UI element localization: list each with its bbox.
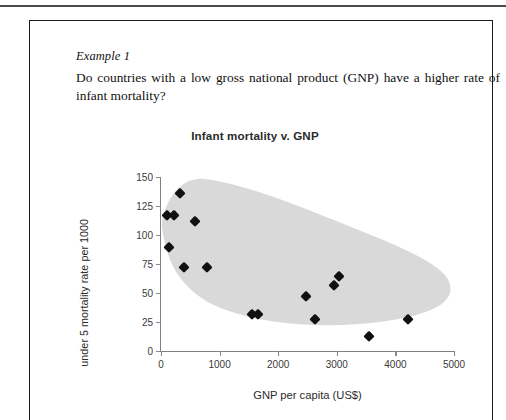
x-tick [395, 351, 396, 356]
y-tick-label: 150 [136, 172, 153, 183]
plot-area: 0255075100125150 010002000300040005000 G… [161, 177, 454, 351]
y-tick-label: 0 [147, 346, 153, 357]
y-tick [156, 206, 161, 207]
y-tick [156, 177, 161, 178]
y-tick-label: 125 [136, 201, 153, 212]
y-tick [156, 293, 161, 294]
x-tick-label: 1000 [208, 359, 230, 370]
y-tick-label: 25 [142, 317, 153, 328]
y-tick [156, 235, 161, 236]
x-tick [454, 351, 455, 356]
x-axis-line [160, 351, 454, 352]
x-tick [337, 351, 338, 356]
x-tick-label: 5000 [443, 359, 465, 370]
y-tick-label: 100 [136, 230, 153, 241]
y-tick [156, 264, 161, 265]
example-label: Example 1 [76, 49, 130, 64]
x-tick-label: 2000 [267, 359, 289, 370]
x-tick-label: 0 [158, 359, 164, 370]
x-tick-label: 3000 [326, 359, 348, 370]
x-axis-title: GNP per capita (US$) [161, 389, 454, 401]
x-tick [161, 351, 162, 356]
chart-title: Infant mortality v. GNP [90, 129, 420, 142]
scatter-chart: Infant mortality v. GNP under 5 mortalit… [90, 129, 490, 419]
x-tick [220, 351, 221, 356]
y-tick-label: 75 [142, 259, 153, 270]
page-top-rule [0, 5, 506, 7]
example-box: Example 1 Do countries with a low gross … [29, 20, 493, 420]
y-axis-title: under 5 mortality rate per 1000 [78, 219, 90, 367]
example-question-text: Do countries with a low gross national p… [76, 69, 500, 104]
y-tick [156, 322, 161, 323]
x-tick [278, 351, 279, 356]
x-tick-label: 4000 [384, 359, 406, 370]
y-tick-label: 50 [142, 288, 153, 299]
